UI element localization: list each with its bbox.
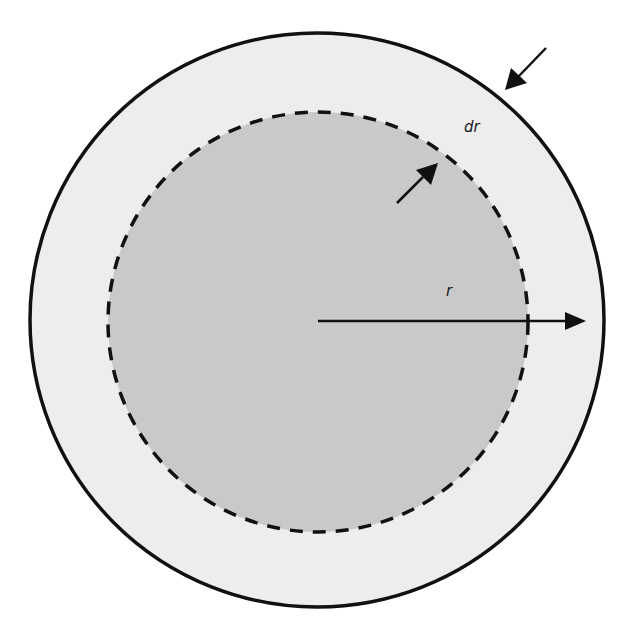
outer-inward-arrow-icon: [505, 48, 546, 90]
label-r: r: [446, 282, 452, 300]
spherical-shell-diagram: [0, 0, 628, 630]
label-dr: dr: [464, 118, 480, 136]
diagram-canvas: dr r: [0, 0, 628, 630]
